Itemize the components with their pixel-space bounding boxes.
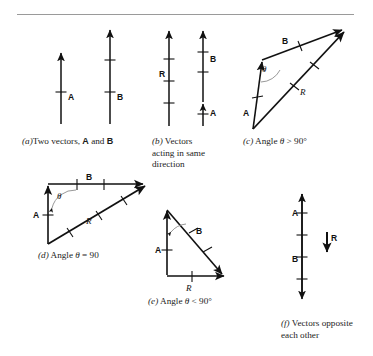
panel-b-label-r: R — [159, 69, 165, 79]
caption-c-pre: Angle — [255, 136, 280, 146]
caption-panel-f: (f) Vectors opposite each other — [281, 318, 371, 341]
panel-f-graphic: A B R — [292, 194, 337, 299]
caption-panel-b: (b) Vectors acting in same direction — [152, 136, 242, 171]
caption-d-tag: (d) — [38, 250, 49, 260]
caption-panel-e: (e) Angle θ < 90° — [148, 296, 288, 308]
panel-b-label-a: A — [210, 108, 216, 118]
panel-d-label-a: A — [33, 210, 39, 220]
panel-f-label-r: R — [331, 233, 337, 243]
caption-a-vector-b: B — [107, 136, 114, 146]
panel-c-vector-a-arrow — [253, 62, 262, 129]
caption-panel-c: (c) Angle θ > 90° — [243, 136, 363, 148]
panel-a-graphic: A B — [56, 30, 124, 124]
caption-b-line1: Vectors — [165, 136, 193, 146]
panel-a-label-b: B — [117, 92, 123, 102]
panel-e-label-r: R — [185, 283, 192, 293]
panel-b-label-b: B — [210, 54, 216, 64]
panel-e-label-b: B — [196, 226, 202, 236]
panel-b-graphic: R A B — [159, 31, 216, 126]
caption-a-text-2: and — [89, 136, 107, 146]
caption-b-tag: (b) — [152, 136, 163, 146]
panel-d-graphic: A B R θ — [33, 172, 145, 244]
panel-c-vector-b-arrow — [262, 30, 342, 60]
caption-c-post: > 90° — [284, 136, 307, 146]
panel-f-label-b: B — [292, 254, 298, 264]
panel-c-label-b: B — [282, 36, 288, 46]
figure-page: A B R A B — [0, 0, 373, 356]
panel-c-label-a: A — [243, 108, 249, 118]
caption-f-line1: Vectors opposite — [292, 318, 353, 328]
caption-d-pre: Angle — [51, 250, 76, 260]
panel-c-graphic: A B R θ — [243, 30, 344, 129]
panel-d-label-theta: θ — [57, 191, 62, 201]
caption-b-line2: acting in same — [152, 148, 205, 158]
caption-a-text-1: Two vectors, — [33, 136, 83, 146]
panel-f-label-a: A — [292, 208, 298, 218]
panel-e-vector-b-tick-2 — [203, 247, 212, 252]
panel-d-label-r: R — [85, 216, 92, 226]
panel-e-angle-arc — [171, 224, 186, 232]
caption-d-post: = 90 — [80, 250, 99, 260]
caption-panel-d: (d) Angle θ = 90 — [38, 250, 188, 262]
caption-e-post: < 90° — [189, 296, 212, 306]
caption-e-pre: Angle — [160, 296, 185, 306]
caption-f-line2: each other — [281, 330, 319, 340]
panel-e-vector-b-arrow — [167, 210, 222, 274]
panel-d-angle-arc — [52, 190, 76, 208]
caption-a-tag: (a) — [22, 136, 33, 146]
caption-e-tag: (e) — [148, 296, 158, 306]
panel-c-label-r: R — [299, 87, 306, 97]
caption-f-tag: (f) — [281, 318, 290, 328]
panel-d-label-b: B — [86, 172, 92, 182]
panel-a-label-a: A — [68, 92, 74, 102]
caption-b-line3: direction — [152, 159, 185, 169]
caption-panel-a: (a)Two vectors, A and B — [22, 136, 172, 148]
panel-c-label-theta: θ — [262, 64, 267, 74]
panel-d-vector-r-arrow — [48, 186, 145, 244]
caption-c-tag: (c) — [243, 136, 253, 146]
